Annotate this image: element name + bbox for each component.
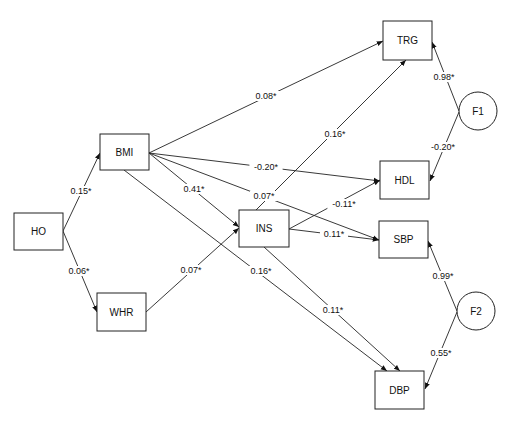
node-f2: F2 bbox=[457, 292, 495, 330]
node-label: WHR bbox=[110, 307, 134, 318]
node-label: SBP bbox=[393, 234, 413, 245]
svg-text:-0.20*: -0.20* bbox=[254, 162, 279, 172]
node-bmi: BMI bbox=[100, 134, 149, 170]
svg-text:0.07*: 0.07* bbox=[253, 191, 275, 201]
svg-text:0.15*: 0.15* bbox=[70, 186, 92, 196]
nodes-layer: HOBMIWHRINSTRGHDLSBPDBPF1F2 bbox=[14, 21, 497, 409]
node-label: F1 bbox=[472, 106, 484, 117]
edge-label: 0.16* bbox=[247, 266, 275, 276]
path-diagram: HOBMIWHRINSTRGHDLSBPDBPF1F2 0.15*0.06*0.… bbox=[0, 0, 510, 423]
node-label: INS bbox=[256, 223, 273, 234]
svg-text:-0.20*: -0.20* bbox=[431, 142, 456, 152]
edge-label: -0.20* bbox=[426, 142, 459, 152]
edge-label: -0.11* bbox=[327, 199, 360, 209]
edge-label: 0.06* bbox=[65, 266, 93, 276]
node-label: TRG bbox=[397, 35, 418, 46]
svg-text:0.98*: 0.98* bbox=[433, 72, 455, 82]
edge-label: 0.55* bbox=[427, 348, 455, 358]
svg-text:0.06*: 0.06* bbox=[68, 266, 90, 276]
node-label: HO bbox=[31, 226, 46, 237]
edge-label: 0.07* bbox=[177, 265, 205, 275]
edge-label: 0.07* bbox=[250, 191, 278, 201]
node-whr: WHR bbox=[97, 293, 146, 331]
svg-text:0.41*: 0.41* bbox=[183, 184, 205, 194]
svg-text:0.11*: 0.11* bbox=[323, 305, 344, 315]
edge-label: 0.16* bbox=[321, 129, 349, 139]
node-dbp: DBP bbox=[375, 371, 424, 409]
svg-text:0.16*: 0.16* bbox=[250, 266, 272, 276]
node-label: F2 bbox=[470, 306, 482, 317]
edge-label: 0.41* bbox=[180, 184, 208, 194]
svg-text:0.16*: 0.16* bbox=[324, 129, 346, 139]
node-label: HDL bbox=[394, 175, 414, 186]
node-label: DBP bbox=[389, 385, 410, 396]
node-f1: F1 bbox=[459, 92, 497, 130]
edge-label: 0.98* bbox=[430, 72, 458, 82]
edge-label: -0.20* bbox=[249, 162, 282, 172]
edge-label: 0.15* bbox=[67, 186, 95, 196]
edge-label: 0.99* bbox=[429, 271, 457, 281]
svg-text:-0.11*: -0.11* bbox=[332, 199, 356, 209]
node-hdl: HDL bbox=[380, 161, 429, 199]
svg-text:0.55*: 0.55* bbox=[430, 348, 452, 358]
svg-text:0.08*: 0.08* bbox=[255, 91, 277, 101]
node-sbp: SBP bbox=[379, 221, 428, 258]
node-ho: HO bbox=[14, 213, 63, 250]
edge-label: 0.08* bbox=[252, 91, 280, 101]
node-label: BMI bbox=[116, 147, 134, 158]
edge-label: 0.11* bbox=[319, 305, 347, 315]
svg-text:0.99*: 0.99* bbox=[432, 271, 454, 281]
svg-text:0.11*: 0.11* bbox=[324, 229, 345, 239]
svg-text:0.07*: 0.07* bbox=[180, 265, 202, 275]
node-ins: INS bbox=[239, 210, 289, 247]
node-trg: TRG bbox=[383, 21, 432, 60]
edge-label: 0.11* bbox=[320, 229, 348, 239]
